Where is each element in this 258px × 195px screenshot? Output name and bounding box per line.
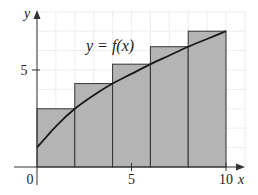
riemann-rectangle [37, 109, 75, 167]
y-axis-arrow-icon [34, 10, 41, 19]
y-axis-label: y [22, 6, 31, 21]
x-tick-label: 0 [27, 172, 34, 187]
x-axis-label: x [237, 172, 245, 187]
riemann-sum-chart: 05105 x y y = f(x) [0, 0, 258, 195]
x-tick-label: 10 [219, 172, 233, 187]
curve-label: y = f(x) [84, 37, 134, 55]
x-tick-label: 5 [128, 172, 135, 187]
x-axis-arrow-icon [236, 164, 245, 171]
y-tick-label: 5 [21, 63, 28, 78]
riemann-rectangle [188, 31, 226, 167]
riemann-rectangle [150, 47, 188, 167]
